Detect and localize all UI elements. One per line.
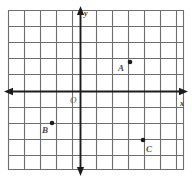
coordinate-plane-svg xyxy=(0,0,192,178)
point-c-label: C xyxy=(146,145,152,154)
point-a-label: A xyxy=(118,64,124,73)
y-axis-label: y xyxy=(84,10,88,18)
point-c-marker xyxy=(141,138,146,143)
origin-label: O xyxy=(70,96,77,105)
y-axis-bottom-arrowhead xyxy=(77,167,84,176)
point-b-marker xyxy=(50,121,55,126)
x-axis-label: x xyxy=(180,100,184,108)
point-a-marker xyxy=(128,60,133,65)
coordinate-grid-figure: y x O A B C xyxy=(0,0,192,178)
point-b-label: B xyxy=(42,126,48,135)
